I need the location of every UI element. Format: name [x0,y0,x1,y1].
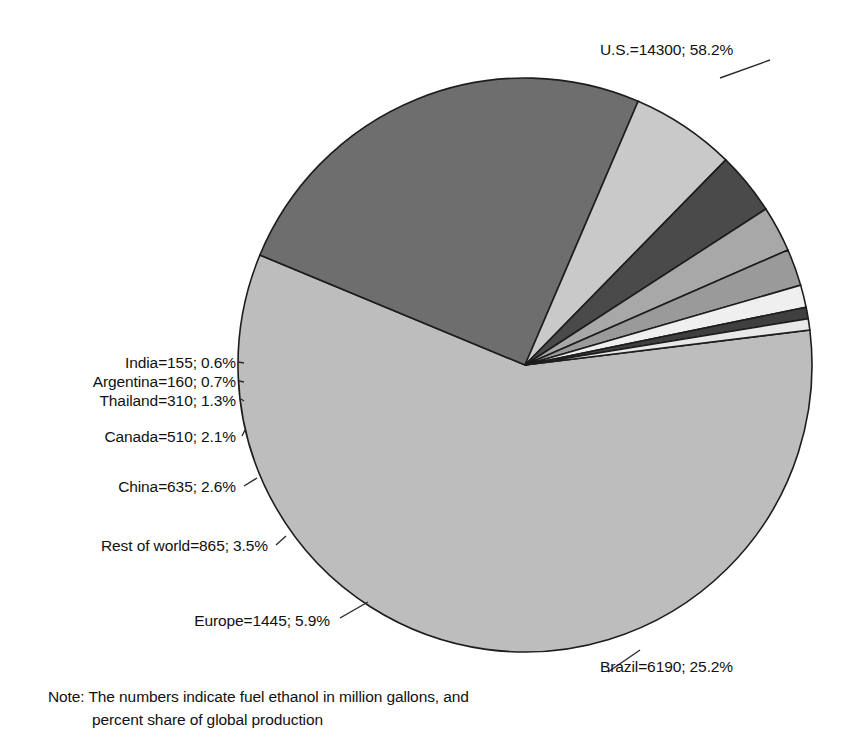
note-line-2: percent share of global production [48,708,608,731]
leader-line [244,478,257,486]
leader-line [340,602,368,618]
leader-line [239,381,244,382]
slice-label-argentina: Argentina=160; 0.7% [93,373,237,390]
pie-chart-svg: U.S.=14300; 58.2% Brazil=6190; 25.2% Eur… [0,0,857,739]
slice-label-india: India=155; 0.6% [125,354,236,371]
slice-label-us: U.S.=14300; 58.2% [600,41,733,58]
pie-chart-figure: U.S.=14300; 58.2% Brazil=6190; 25.2% Eur… [0,0,857,739]
leader-line [242,430,245,436]
leader-line [720,60,770,78]
slice-label-china: China=635; 2.6% [118,478,236,495]
slice-label-canada: Canada=510; 2.1% [104,428,236,445]
slice-label-rest-of-world: Rest of world=865; 3.5% [101,537,268,554]
leader-line [238,362,244,363]
note-line-1: Note: The numbers indicate fuel ethanol … [48,685,608,708]
chart-note: Note: The numbers indicate fuel ethanol … [48,685,608,731]
slice-label-brazil: Brazil=6190; 25.2% [600,658,733,675]
slice-label-thailand: Thailand=310; 1.3% [99,392,236,409]
leader-line [276,536,286,545]
slice-label-europe: Europe=1445; 5.9% [194,612,330,629]
pie-slices [238,78,812,652]
